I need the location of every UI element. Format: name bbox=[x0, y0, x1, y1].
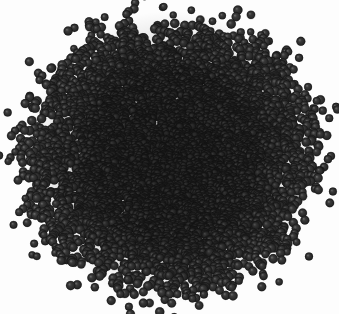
particle-heap-image: A large circular pile of many thousands … bbox=[0, 0, 339, 314]
particle-heap-canvas bbox=[0, 0, 339, 314]
